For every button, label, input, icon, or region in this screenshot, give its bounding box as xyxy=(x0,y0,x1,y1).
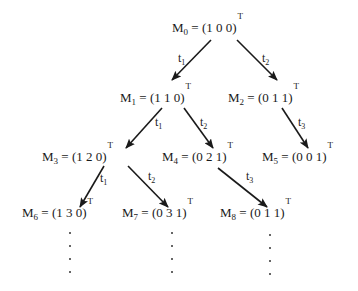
node-m3-name: M xyxy=(42,149,54,164)
node-m6-index: 6 xyxy=(34,212,39,222)
node-m4: M4 = (0 2 1)T xyxy=(162,150,227,163)
node-m7-vector: (0 3 1) xyxy=(152,205,187,220)
node-m2-index: 2 xyxy=(240,97,245,107)
edge-label-m2-m5: t3 xyxy=(298,116,305,128)
node-m2-vector: (0 1 1) xyxy=(258,90,293,105)
transpose-mark: T xyxy=(228,141,234,150)
node-m3: M3 = (1 2 0)T xyxy=(42,150,107,163)
node-m0-index: 0 xyxy=(184,27,189,37)
transpose-mark: T xyxy=(186,82,192,91)
edge-label-index: 2 xyxy=(151,176,155,185)
transpose-mark: T xyxy=(108,141,114,150)
transpose-mark: T xyxy=(88,197,94,206)
edge-label-index: 3 xyxy=(301,122,305,131)
edge-label-index: 1 xyxy=(181,58,185,67)
node-m8: M8 = (0 1 1)T xyxy=(220,206,285,219)
transpose-mark: T xyxy=(238,12,244,21)
node-m6-vector: (1 3 0) xyxy=(52,205,87,220)
edge-label-index: 1 xyxy=(103,178,107,187)
edge-label-index: 3 xyxy=(249,176,253,185)
edge-m1-m4-arrow xyxy=(184,108,213,148)
continuation-ellipsis-m7 xyxy=(171,232,175,284)
transpose-mark: T xyxy=(286,197,292,206)
node-m6-name: M xyxy=(22,205,34,220)
node-m1-vector: (1 1 0) xyxy=(150,90,185,105)
node-m0-vector: (1 0 0) xyxy=(202,20,237,35)
edge-label-m0-m2: t2 xyxy=(262,52,269,64)
node-m2-name: M xyxy=(228,90,240,105)
edge-label-index: 1 xyxy=(158,122,162,131)
node-m7-name: M xyxy=(122,205,134,220)
continuation-ellipsis-m8 xyxy=(269,234,273,286)
edge-label-m1-m3: t1 xyxy=(155,116,162,128)
node-m5: M5 = (0 0 1)T xyxy=(262,150,327,163)
node-m8-vector: (0 1 1) xyxy=(250,205,285,220)
node-m1-name: M xyxy=(120,90,132,105)
node-m2: M2 = (0 1 1)T xyxy=(228,91,293,104)
node-m3-index: 3 xyxy=(54,156,59,166)
edge-m4-m8-arrow xyxy=(218,168,267,207)
edge-label-m4-m8: t3 xyxy=(246,170,253,182)
node-m6: M6 = (1 3 0)T xyxy=(22,206,87,219)
edge-label-m1-m4: t2 xyxy=(200,116,207,128)
node-m3-vector: (1 2 0) xyxy=(72,149,107,164)
node-m1: M1 = (1 1 0)T xyxy=(120,91,185,104)
node-m7-index: 7 xyxy=(134,212,139,222)
node-m5-name: M xyxy=(262,149,274,164)
edges-layer xyxy=(0,0,358,291)
edge-label-m0-m1: t1 xyxy=(178,52,185,64)
transpose-mark: T xyxy=(294,82,300,91)
node-m4-vector: (0 2 1) xyxy=(192,149,227,164)
continuation-ellipsis-m6 xyxy=(69,232,73,284)
transpose-mark: T xyxy=(188,197,194,206)
edge-label-index: 2 xyxy=(265,58,269,67)
node-m5-index: 5 xyxy=(274,156,279,166)
node-m4-name: M xyxy=(162,149,174,164)
node-m8-index: 8 xyxy=(232,212,237,222)
node-m1-index: 1 xyxy=(132,97,137,107)
node-m5-vector: (0 0 1) xyxy=(292,149,327,164)
edge-label-m3-m7: t2 xyxy=(148,170,155,182)
node-m0: M0 = (1 0 0)T xyxy=(172,21,237,34)
edge-label-m3-m6: t1 xyxy=(100,172,107,184)
node-m8-name: M xyxy=(220,205,232,220)
node-m4-index: 4 xyxy=(174,156,179,166)
edge-m0-m2-arrow xyxy=(237,40,277,80)
transpose-mark: T xyxy=(328,141,334,150)
node-m7: M7 = (0 3 1)T xyxy=(122,206,187,219)
node-m0-name: M xyxy=(172,20,184,35)
edge-label-index: 2 xyxy=(203,122,207,131)
